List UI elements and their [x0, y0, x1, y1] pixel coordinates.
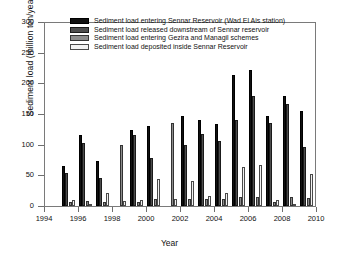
y-axis-tick — [38, 53, 44, 54]
legend-label: Sediment load deposited inside Sennar Re… — [94, 43, 248, 52]
bar — [201, 134, 204, 206]
bar — [215, 124, 218, 206]
bar — [82, 143, 85, 206]
bar — [191, 181, 194, 206]
x-axis-tick-label: 1994 — [29, 214, 59, 223]
legend-label: Sediment load released downstream of Sen… — [94, 26, 269, 35]
bar — [133, 135, 136, 206]
legend-swatch — [70, 18, 89, 24]
chart-figure: Sediment load (million ton/year) 0501001… — [0, 0, 339, 262]
bar — [86, 201, 89, 206]
bar — [252, 96, 255, 206]
x-axis-tick-label: 2010 — [301, 214, 331, 223]
bar — [249, 70, 252, 206]
x-axis-tick-label: 2004 — [199, 214, 229, 223]
bar — [130, 130, 133, 206]
bar — [307, 198, 310, 206]
bar — [242, 167, 245, 206]
bar — [150, 158, 153, 206]
legend-item: Sediment load entering Sennar Reservoir … — [70, 17, 285, 26]
x-axis-tick — [248, 207, 249, 212]
bar — [198, 120, 201, 206]
y-axis-tick — [38, 175, 44, 176]
x-axis-tick-label: 1998 — [97, 214, 127, 223]
chart-legend: Sediment load entering Sennar Reservoir … — [70, 17, 285, 51]
x-axis-tick-label: 2006 — [233, 214, 263, 223]
legend-swatch — [70, 27, 89, 33]
legend-swatch — [70, 44, 89, 50]
x-axis-tick-label: 2002 — [165, 214, 195, 223]
x-axis-tick — [78, 207, 79, 212]
x-axis-tick — [112, 207, 113, 212]
bar — [310, 174, 313, 207]
bar — [69, 202, 72, 206]
bar — [218, 141, 221, 206]
bar — [171, 123, 174, 206]
bar — [235, 120, 238, 206]
bar — [79, 135, 82, 206]
legend-label: Sediment load entering Gezira and Managi… — [94, 34, 259, 43]
bar — [96, 161, 99, 206]
y-axis-tick — [38, 83, 44, 84]
bar — [269, 123, 272, 206]
bar — [137, 202, 140, 206]
x-axis-tick-label: 2000 — [131, 214, 161, 223]
bar — [222, 199, 225, 206]
bar — [239, 197, 242, 206]
legend-swatch — [70, 35, 89, 41]
x-axis-tick — [180, 207, 181, 212]
bar — [273, 202, 276, 206]
y-axis-tick — [38, 22, 44, 23]
bar — [266, 116, 269, 206]
bar — [184, 145, 187, 206]
bar — [103, 202, 106, 206]
bar — [303, 147, 306, 206]
bar — [286, 104, 289, 206]
x-axis-tick — [44, 207, 45, 212]
bar — [174, 199, 177, 206]
bar — [256, 197, 259, 206]
x-axis-tick — [316, 207, 317, 212]
bar — [290, 197, 293, 206]
x-axis-tick — [146, 207, 147, 212]
bar — [232, 75, 235, 206]
bar — [208, 196, 211, 206]
x-axis-tick — [282, 207, 283, 212]
bar — [65, 173, 68, 206]
x-axis-title: Year — [0, 238, 339, 248]
x-axis-tick-label: 2008 — [267, 214, 297, 223]
bar — [147, 126, 150, 206]
bar — [300, 111, 303, 206]
bar — [276, 200, 279, 206]
bar — [123, 201, 126, 206]
legend-item: Sediment load deposited inside Sennar Re… — [70, 43, 285, 52]
bar — [154, 199, 157, 206]
legend-item: Sediment load released downstream of Sen… — [70, 26, 285, 35]
bar-group — [300, 22, 314, 206]
bar — [259, 165, 262, 206]
x-axis-tick — [214, 207, 215, 212]
bar — [106, 193, 109, 206]
bar — [157, 179, 160, 206]
legend-label: Sediment load entering Sennar Reservoir … — [94, 17, 285, 26]
y-axis-tick — [38, 145, 44, 146]
x-axis-tick-label: 1996 — [63, 214, 93, 223]
bar — [72, 200, 75, 206]
bar — [188, 199, 191, 206]
bar — [120, 145, 123, 206]
legend-item: Sediment load entering Gezira and Managi… — [70, 34, 285, 43]
bar — [62, 166, 65, 206]
bar — [205, 199, 208, 206]
bar — [293, 204, 296, 206]
bar — [225, 193, 228, 206]
bar — [89, 204, 92, 206]
bar — [181, 116, 184, 206]
bar — [140, 200, 143, 206]
y-axis-tick — [38, 114, 44, 115]
bar — [283, 96, 286, 206]
bar — [99, 178, 102, 206]
